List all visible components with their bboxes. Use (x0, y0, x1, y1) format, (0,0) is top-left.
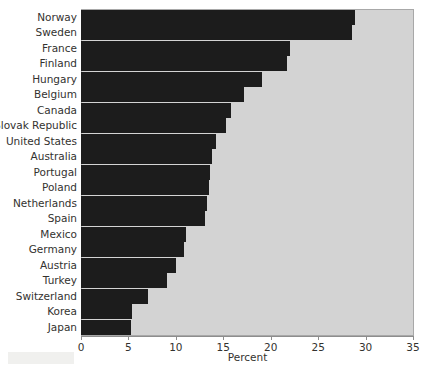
category-label: Belgium (34, 87, 77, 102)
x-tick (366, 336, 367, 340)
bar-row: Netherlands (81, 196, 413, 211)
bar-chart: NorwaySwedenFranceFinlandHungaryBelgiumC… (0, 0, 431, 367)
bar (81, 273, 167, 288)
bar-row: Mexico (81, 227, 413, 242)
bar (81, 258, 176, 273)
x-tick (413, 336, 414, 340)
bar-row: Belgium (81, 87, 413, 102)
category-label: Hungary (32, 72, 77, 87)
bar-row: Hungary (81, 72, 413, 87)
bar (81, 289, 148, 304)
bar-row: Switzerland (81, 289, 413, 304)
category-label: Mexico (40, 227, 77, 242)
bar-row: Portugal (81, 165, 413, 180)
bar-row: Poland (81, 180, 413, 195)
x-tick (271, 336, 272, 340)
category-label: Switzerland (16, 289, 77, 304)
x-tick (128, 336, 129, 340)
category-label: Finland (39, 56, 77, 71)
bar (81, 72, 262, 87)
bar (81, 134, 216, 149)
x-tick (223, 336, 224, 340)
bar (81, 103, 231, 118)
category-label: Austria (40, 258, 77, 273)
category-label: Slovak Republic (0, 118, 77, 133)
bar-row: Slovak Republic (81, 118, 413, 133)
bar (81, 41, 290, 56)
bar-row: Turkey (81, 273, 413, 288)
x-axis: 05101520253035 (81, 336, 414, 337)
bar-row: United States (81, 134, 413, 149)
category-label: Poland (42, 180, 77, 195)
bar-row: France (81, 41, 413, 56)
x-axis-title: Percent (81, 351, 414, 363)
category-label: Japan (48, 320, 77, 335)
category-label: Norway (37, 10, 77, 25)
bar (81, 10, 355, 25)
bar-row: Sweden (81, 25, 413, 40)
category-label: Canada (37, 103, 77, 118)
bar-row: Finland (81, 56, 413, 71)
bar-row: Australia (81, 149, 413, 164)
category-label: Spain (48, 211, 77, 226)
bar (81, 165, 210, 180)
bar-row: Norway (81, 10, 413, 25)
bar-row: Canada (81, 103, 413, 118)
category-label: Australia (31, 149, 77, 164)
category-label: Turkey (43, 273, 77, 288)
bar (81, 242, 184, 257)
category-label: Sweden (36, 25, 78, 40)
category-label: France (42, 41, 77, 56)
bar (81, 149, 212, 164)
bar (81, 304, 132, 319)
x-tick (81, 336, 82, 340)
bar (81, 56, 287, 71)
category-label: Korea (47, 304, 77, 319)
bar-row: Austria (81, 258, 413, 273)
bar (81, 211, 205, 226)
bar (81, 180, 209, 195)
bar (81, 87, 244, 102)
bar (81, 320, 131, 335)
category-label: Portugal (34, 165, 78, 180)
bar-row: Germany (81, 242, 413, 257)
bar-row: Spain (81, 211, 413, 226)
x-tick (176, 336, 177, 340)
bar-row: Japan (81, 320, 413, 335)
bar (81, 25, 352, 40)
bar-row: Korea (81, 304, 413, 319)
bar (81, 118, 226, 133)
bar-rows: NorwaySwedenFranceFinlandHungaryBelgiumC… (81, 10, 413, 335)
category-label: United States (6, 134, 77, 149)
category-label: Netherlands (13, 196, 77, 211)
bar (81, 227, 186, 242)
x-tick (318, 336, 319, 340)
category-label: Germany (29, 242, 77, 257)
page-artifact-block (8, 352, 74, 364)
bar (81, 196, 207, 211)
chart-title-remnant (150, 0, 390, 3)
